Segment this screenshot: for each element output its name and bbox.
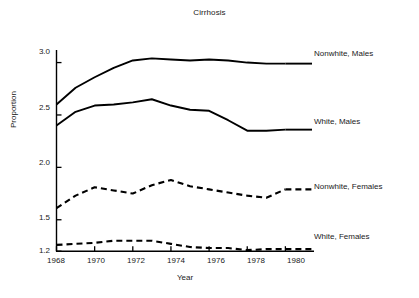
series-line-nonwhite-females: [57, 180, 286, 208]
series-label-white-males: White, Males: [314, 117, 360, 126]
series-line-white-males: [57, 99, 286, 130]
y-tick-marks: [57, 63, 62, 252]
series-label-white-females: White, Females: [314, 232, 370, 241]
series-lines: [57, 58, 286, 250]
chart-figure: Cirrhosis Proportion Year 3.0 2.5 2.0 1.…: [0, 0, 419, 298]
series-line-nonwhite-males: [57, 58, 286, 104]
label-leader-lines: [285, 64, 312, 249]
axes: [56, 50, 314, 252]
series-label-nonwhite-males: Nonwhite, Males: [314, 49, 373, 58]
plot-area: [0, 0, 419, 298]
series-label-nonwhite-females: Nonwhite, Females: [314, 182, 382, 191]
